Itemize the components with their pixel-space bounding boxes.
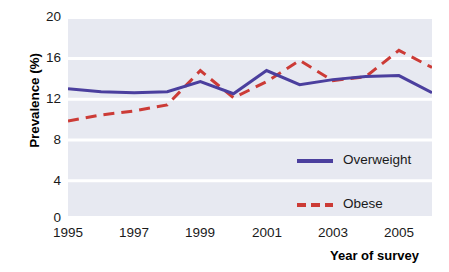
- x-axis-title: Year of survey: [330, 248, 419, 263]
- plot-svg: [68, 16, 432, 218]
- y-tick-label-16: 16: [31, 50, 61, 65]
- x-tick-label-1997: 1997: [104, 225, 164, 240]
- y-tick-label-0: 0: [31, 210, 61, 225]
- prevalence-line-chart: Prevalence (%) 20 16 12 8 4 0 1995 1997 …: [0, 0, 449, 272]
- legend-swatch-obese-dashed-line: [297, 203, 333, 207]
- plot-background: [68, 16, 432, 218]
- x-tick-label-2003: 2003: [303, 225, 363, 240]
- x-tick-label-2001: 2001: [237, 225, 297, 240]
- x-tick-label-2005: 2005: [369, 225, 429, 240]
- x-tick-label-1995: 1995: [38, 225, 98, 240]
- plot-area: [68, 16, 432, 218]
- legend-label-obese: Obese: [343, 196, 383, 211]
- y-tick-label-8: 8: [31, 132, 61, 147]
- x-tick-label-1999: 1999: [170, 225, 230, 240]
- y-tick-label-4: 4: [31, 173, 61, 188]
- legend-swatch-overweight-solid-line: [297, 159, 333, 163]
- legend-label-overweight: Overweight: [343, 152, 411, 167]
- y-tick-label-12: 12: [31, 91, 61, 106]
- y-tick-label-20: 20: [31, 9, 61, 24]
